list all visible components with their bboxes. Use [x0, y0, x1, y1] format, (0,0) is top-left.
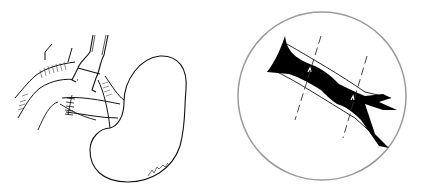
- inset-drawing: [215, 0, 430, 192]
- kidney: [90, 56, 186, 182]
- renal-artery: [62, 76, 124, 128]
- kidney-drawing: [0, 0, 215, 192]
- stenosis-inset-panel: [215, 0, 430, 192]
- vascular-clamp: [72, 35, 108, 92]
- aorta: [15, 44, 78, 118]
- kidney-illustration-panel: [0, 0, 215, 192]
